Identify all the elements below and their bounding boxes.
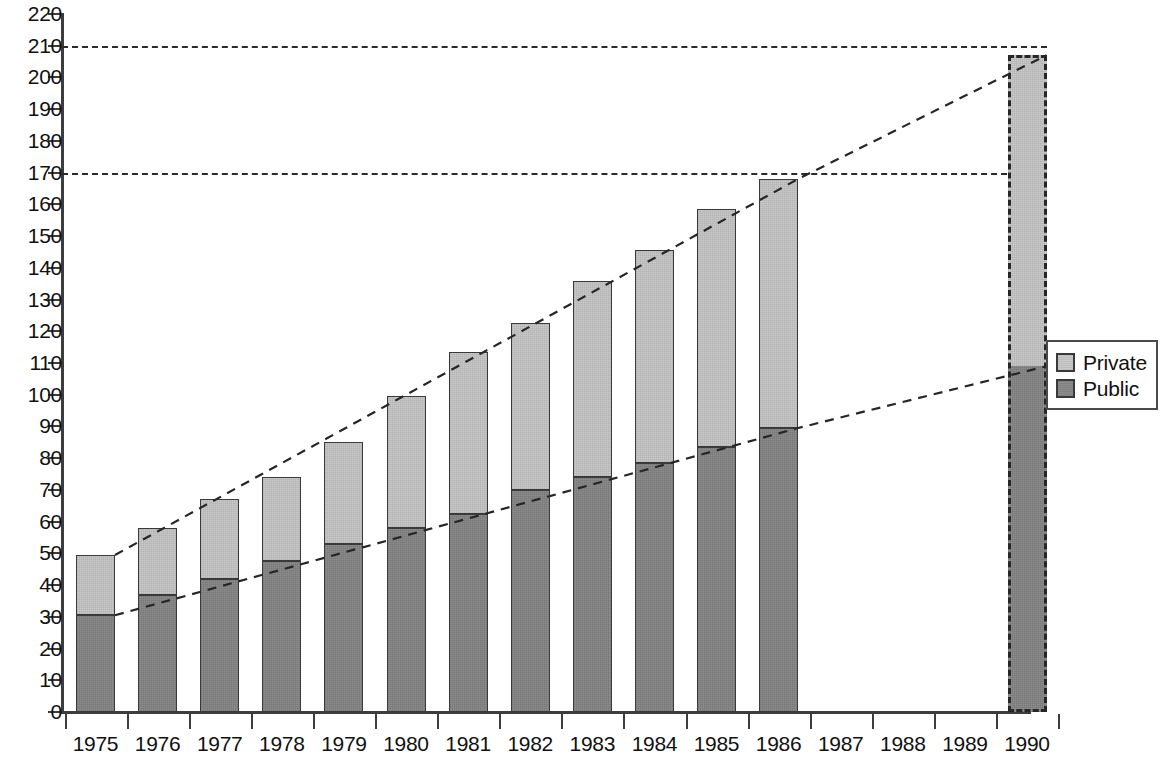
bar-segment-public-1980[interactable] (387, 528, 426, 712)
x-tick-label-1979: 1979 (309, 733, 379, 755)
bar-segment-private-1985[interactable] (697, 209, 736, 447)
y-tick-label: 40 (2, 574, 62, 595)
bar-segment-public-1990[interactable] (1008, 366, 1047, 712)
x-tick-mark (748, 714, 750, 729)
bar-segment-private-1981[interactable] (449, 352, 488, 514)
x-tick-mark (189, 714, 191, 729)
bar-segment-private-1979[interactable] (324, 442, 363, 544)
x-tick-mark (251, 714, 253, 729)
x-tick-mark (437, 714, 439, 729)
bar-segment-public-1985[interactable] (697, 447, 736, 712)
x-tick-mark (1058, 714, 1060, 729)
bar-segment-public-1981[interactable] (449, 514, 488, 712)
legend-item-private[interactable]: Private (1056, 349, 1147, 375)
x-tick-label-1988: 1988 (868, 733, 938, 755)
x-tick-label-1990: 1990 (992, 733, 1062, 755)
bar-1990[interactable] (1008, 55, 1047, 712)
x-tick-mark (872, 714, 874, 729)
x-tick-mark (686, 714, 688, 729)
y-tick-label: 180 (2, 130, 62, 151)
bar-segment-private-1978[interactable] (262, 477, 301, 561)
x-tick-mark (934, 714, 936, 729)
y-tick-label: 70 (2, 479, 62, 500)
bar-1980[interactable] (387, 396, 426, 712)
x-tick-label-1982: 1982 (495, 733, 565, 755)
bar-segment-private-1990[interactable] (1008, 55, 1047, 366)
bar-segment-public-1979[interactable] (324, 544, 363, 712)
bar-1979[interactable] (324, 442, 363, 712)
bar-segment-private-1980[interactable] (387, 396, 426, 528)
x-tick-label-1980: 1980 (371, 733, 441, 755)
x-tick-label-1984: 1984 (619, 733, 689, 755)
x-tick-mark (127, 714, 129, 729)
legend: Private Public (1046, 340, 1158, 410)
bar-segment-public-1983[interactable] (573, 477, 612, 712)
y-tick-label: 90 (2, 415, 62, 436)
reference-line-170 (62, 173, 1047, 175)
legend-label-private: Private (1083, 352, 1147, 373)
x-tick-label-1981: 1981 (433, 733, 503, 755)
x-tick-mark (65, 714, 67, 729)
x-tick-mark (499, 714, 501, 729)
x-tick-mark (623, 714, 625, 729)
x-tick-mark (375, 714, 377, 729)
y-tick-label: 100 (2, 384, 62, 405)
bar-segment-private-1976[interactable] (138, 528, 177, 595)
bar-1978[interactable] (262, 477, 301, 712)
y-tick-label: 130 (2, 289, 62, 310)
y-tick-label: 170 (2, 162, 62, 183)
bar-1975[interactable] (76, 555, 115, 712)
x-tick-label-1989: 1989 (930, 733, 1000, 755)
x-tick-mark (561, 714, 563, 729)
x-tick-label-1976: 1976 (123, 733, 193, 755)
bar-segment-private-1982[interactable] (511, 323, 550, 490)
bar-segment-public-1977[interactable] (200, 579, 239, 712)
x-tick-label-1986: 1986 (744, 733, 814, 755)
bar-1977[interactable] (200, 499, 239, 712)
x-tick-mark (996, 714, 998, 729)
bar-1983[interactable] (573, 281, 612, 712)
bar-segment-public-1986[interactable] (759, 428, 798, 712)
y-tick-label: 190 (2, 98, 62, 119)
bar-segment-public-1976[interactable] (138, 595, 177, 712)
bar-segment-public-1975[interactable] (76, 615, 115, 712)
x-tick-label-1977: 1977 (185, 733, 255, 755)
x-tick-label-1985: 1985 (682, 733, 752, 755)
legend-swatch-public-icon (1056, 379, 1075, 398)
bar-1985[interactable] (697, 209, 736, 712)
bar-1984[interactable] (635, 250, 674, 712)
bar-segment-private-1983[interactable] (573, 281, 612, 478)
bar-1982[interactable] (511, 323, 550, 712)
bar-segment-public-1978[interactable] (262, 561, 301, 712)
x-tick-label-1987: 1987 (806, 733, 876, 755)
y-tick-label: 150 (2, 225, 62, 246)
bar-segment-private-1977[interactable] (200, 499, 239, 578)
y-tick-label: 210 (2, 35, 62, 56)
bar-1986[interactable] (759, 179, 798, 712)
y-tick-label: 110 (2, 352, 62, 373)
chart-container: 0102030405060708090100110120130140150160… (0, 0, 1160, 762)
bar-1976[interactable] (138, 528, 177, 712)
bar-segment-private-1984[interactable] (635, 250, 674, 463)
x-tick-mark (810, 714, 812, 729)
legend-item-public[interactable]: Public (1056, 375, 1147, 401)
x-tick-label-1978: 1978 (247, 733, 317, 755)
bar-segment-public-1984[interactable] (635, 463, 674, 712)
y-tick-label: 80 (2, 447, 62, 468)
y-tick-label: 220 (2, 3, 62, 24)
y-tick-label: 30 (2, 606, 62, 627)
legend-swatch-private-icon (1056, 353, 1075, 372)
bar-segment-private-1975[interactable] (76, 555, 115, 615)
y-tick-label: 20 (2, 638, 62, 659)
y-tick-label: 160 (2, 193, 62, 214)
x-tick-label-1983: 1983 (557, 733, 627, 755)
y-tick-label: 120 (2, 320, 62, 341)
y-tick-label: 0 (2, 701, 62, 722)
bar-1981[interactable] (449, 352, 488, 712)
y-tick-label: 200 (2, 66, 62, 87)
x-tick-label-1975: 1975 (61, 733, 131, 755)
bar-segment-private-1986[interactable] (759, 179, 798, 428)
bar-segment-public-1982[interactable] (511, 490, 550, 712)
reference-line-210 (62, 46, 1047, 48)
y-tick-label: 50 (2, 542, 62, 563)
